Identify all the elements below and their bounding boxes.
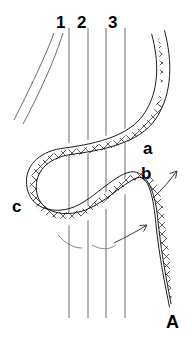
occlusion-arc-left (58, 235, 82, 248)
oblique-tendon-edge-1 (14, 33, 54, 120)
oblique-tendon-lines (14, 33, 63, 124)
label-band-point-c: c (12, 198, 21, 215)
figure-drawing-canvas (0, 0, 192, 344)
label-band-point-a: a (143, 140, 152, 157)
occlusion-arc-marks (58, 235, 116, 249)
label-tendon-2: 2 (77, 14, 86, 31)
rotation-arrow-lower (114, 225, 147, 243)
occlusion-arc-mid (92, 245, 116, 249)
label-tendon-1: 1 (56, 14, 65, 31)
vertical-tendon-lines (69, 28, 125, 318)
figure-panel-a: 1 2 3 a b c A (0, 0, 192, 344)
label-tendon-3: 3 (108, 14, 117, 31)
oblique-tendon-edge-2 (23, 33, 63, 124)
label-panel-a: A (166, 313, 179, 331)
label-band-point-b: b (141, 165, 151, 182)
